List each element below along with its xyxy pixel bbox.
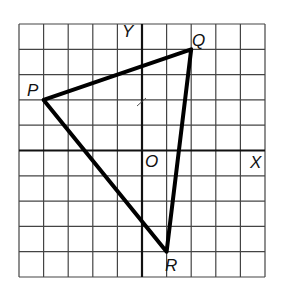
coordinate-grid-diagram: Y X O P Q R (0, 0, 284, 299)
point-r-label: R (165, 256, 177, 275)
x-axis-label: X (249, 153, 262, 172)
origin-label: O (145, 152, 158, 171)
point-p-label: P (27, 81, 39, 100)
axes (19, 24, 265, 277)
y-axis-label: Y (122, 22, 135, 41)
point-q-label: Q (192, 31, 205, 50)
